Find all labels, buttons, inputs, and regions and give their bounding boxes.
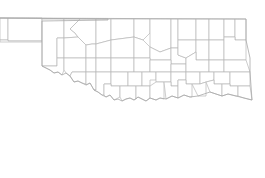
county-shape: [70, 72, 86, 84]
county-shape: [111, 37, 134, 58]
county-shape: [150, 60, 171, 72]
county-shape: [196, 19, 209, 40]
county-shape: [150, 19, 171, 52]
county-shape: [86, 72, 96, 90]
county-shape: [111, 19, 134, 40]
county-shape: [8, 18, 42, 41]
county-shape: [224, 19, 235, 37]
county-shape: [134, 19, 150, 40]
county-shape: [209, 40, 224, 60]
county-shape: [171, 19, 178, 48]
county-shape: [178, 19, 196, 40]
county-shape: [230, 72, 250, 86]
county-shape: [209, 60, 224, 72]
county-shape: [150, 82, 164, 100]
county-shape: [214, 72, 230, 84]
county-shape: [186, 72, 200, 84]
county-shape: [111, 72, 128, 86]
county-shape: [224, 60, 250, 72]
oklahoma-county-map: [0, 0, 265, 178]
county-shape: [57, 38, 64, 58]
county-shape: [235, 19, 246, 40]
county-shape: [224, 37, 246, 60]
county-shape: [111, 58, 134, 72]
county-layer: [0, 18, 252, 101]
county-shape: [134, 37, 150, 58]
county-shape: [136, 86, 150, 101]
county-shape: [171, 64, 186, 72]
county-shape: [209, 19, 224, 40]
county-shape: [128, 72, 142, 86]
county-shape: [86, 44, 96, 58]
county-shape: [156, 72, 171, 82]
county-shape: [86, 58, 96, 72]
county-shape: [196, 40, 209, 60]
county-shape: [134, 58, 150, 72]
county-shape: [96, 58, 111, 72]
county-shape: [0, 18, 8, 40]
